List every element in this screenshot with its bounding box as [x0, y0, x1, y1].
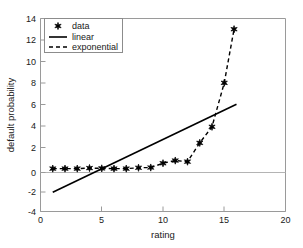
legend-label-data: data	[72, 21, 90, 31]
y-tick-label: 10	[26, 57, 36, 67]
legend: data linear exponential	[45, 19, 123, 53]
y-tick-label: 8	[31, 78, 36, 88]
y-tick-label: 12	[26, 35, 36, 45]
default-probability-chart: 14 12 10 8 6 4 2 0 -2 -4 0 5 10 15 20	[0, 0, 303, 248]
x-tick-label: 0	[38, 215, 43, 225]
x-tick-label: 15	[219, 215, 229, 225]
x-tick-label: 5	[99, 215, 104, 225]
y-tick-label: 6	[31, 100, 36, 110]
legend-label-exponential: exponential	[72, 42, 118, 52]
y-tick-label: 0	[31, 168, 36, 178]
y-tick-label: -4	[28, 207, 36, 217]
y-axis-title: default probability	[5, 78, 16, 153]
y-tick-label: -2	[28, 187, 36, 197]
x-tick-label: 10	[158, 215, 168, 225]
chart-figure: 14 12 10 8 6 4 2 0 -2 -4 0 5 10 15 20	[0, 0, 303, 248]
x-tick-label: 20	[280, 215, 290, 225]
legend-label-linear: linear	[72, 32, 94, 42]
y-tick-label: 2	[31, 143, 36, 153]
y-tick-label: 4	[31, 121, 36, 131]
y-tick-label: 14	[26, 14, 36, 24]
x-axis-title: rating	[151, 229, 175, 240]
